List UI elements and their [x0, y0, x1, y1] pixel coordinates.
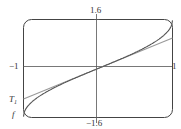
- y-bottom-label: −1.6: [86, 119, 102, 128]
- f-label: f: [12, 110, 15, 119]
- t1-label: T1: [9, 95, 17, 107]
- t1-label-sub: 1: [14, 99, 17, 105]
- y-top-label: 1.6: [90, 6, 101, 15]
- x-left-label: −1: [9, 62, 19, 71]
- x-right-label: 1: [172, 62, 177, 71]
- f-curve: [24, 20, 173, 116]
- plot-canvas: [0, 0, 181, 129]
